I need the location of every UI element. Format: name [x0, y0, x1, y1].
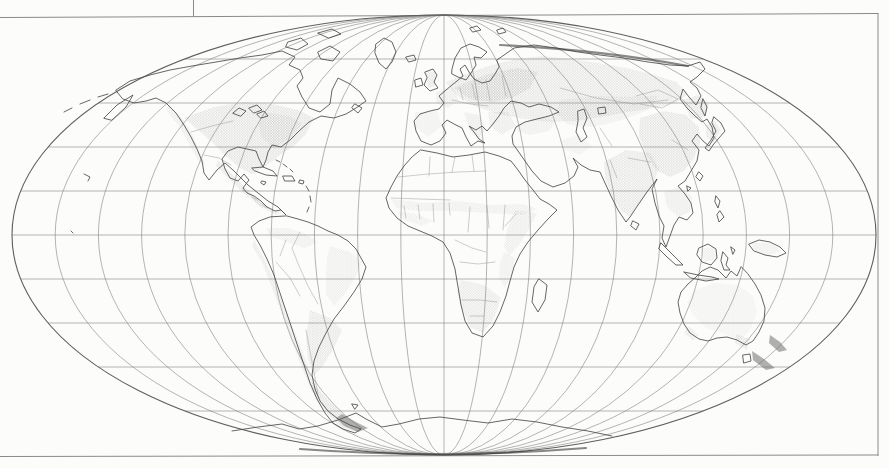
graticule — [12, 15, 876, 455]
coast-aleutians-pacific-islets — [64, 94, 108, 233]
shade-southeast-asia — [664, 187, 692, 217]
shade-west-africa — [396, 211, 433, 226]
shade-sa-north — [266, 228, 318, 248]
coast-siberia-left-edge — [104, 95, 133, 120]
shade-sa-east-brazil — [326, 246, 362, 306]
shade-southern-africa — [457, 280, 501, 333]
map-layers — [0, 0, 878, 457]
shade-australia-southeast — [735, 334, 750, 350]
shade-ethiopia — [504, 210, 537, 256]
coast-madagascar — [532, 279, 547, 312]
world-map-figure — [0, 0, 889, 468]
dark-fills — [336, 335, 787, 432]
shade-middle-east — [560, 135, 592, 155]
shade-indonesia — [700, 247, 717, 262]
coast-arctic-islands — [286, 29, 362, 113]
shade-australia-center — [687, 283, 757, 340]
coast-philippines — [715, 196, 724, 222]
shade-east-africa — [499, 252, 515, 288]
shade-turkey — [517, 117, 556, 135]
fill-new-zealand-north — [769, 335, 787, 352]
scanned-map-page — [0, 0, 889, 468]
shade-sa-pampas — [306, 310, 342, 376]
shade-britain — [426, 71, 436, 88]
